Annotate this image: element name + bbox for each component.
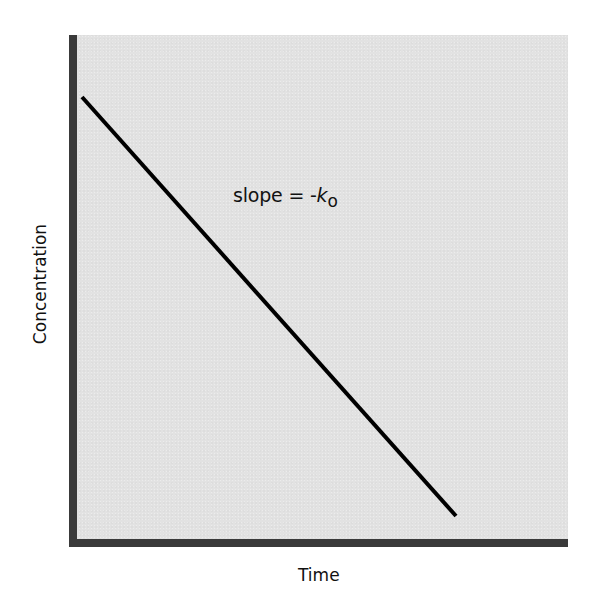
slope-annotation: slope = -ko bbox=[233, 184, 338, 206]
x-axis-line bbox=[69, 539, 568, 547]
y-axis-label: Concentration bbox=[30, 224, 50, 344]
x-axis-label: Time bbox=[298, 565, 340, 585]
slope-annotation-prefix: slope = - bbox=[233, 184, 317, 206]
plot-area bbox=[69, 35, 568, 547]
y-axis-line bbox=[69, 35, 77, 547]
slope-annotation-subscript: o bbox=[327, 191, 337, 211]
slope-annotation-symbol: k bbox=[317, 184, 328, 206]
